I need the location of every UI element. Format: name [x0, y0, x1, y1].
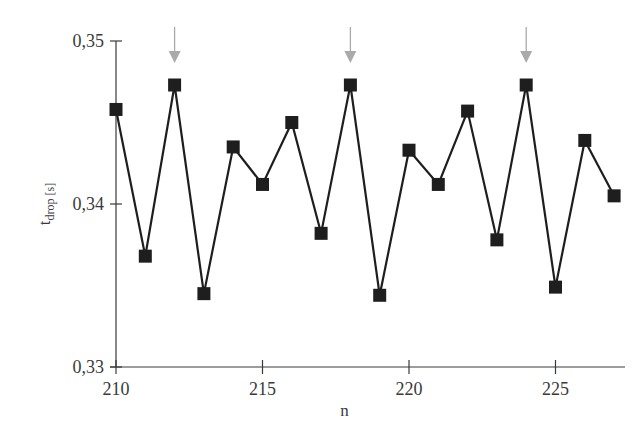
data-point-marker — [315, 227, 328, 240]
y-tick-label: 0,35 — [73, 31, 105, 51]
chart: 0,330,340,35210215220225ntdrop [s] — [0, 0, 643, 446]
data-point-marker — [344, 79, 357, 92]
data-point-marker — [461, 105, 474, 118]
series-line — [116, 85, 614, 295]
y-axis-title: tdrop [s] — [35, 183, 57, 225]
data-point-marker — [432, 178, 445, 191]
data-point-marker — [373, 289, 386, 302]
x-tick-label: 215 — [249, 379, 276, 399]
data-point-marker — [490, 233, 503, 246]
y-tick-label: 0,34 — [73, 194, 105, 214]
arrow-down-icon — [344, 51, 356, 63]
data-point-marker — [256, 178, 269, 191]
data-point-marker — [139, 250, 152, 263]
data-point-marker — [285, 116, 298, 129]
x-tick-label: 220 — [396, 379, 423, 399]
data-point-marker — [168, 79, 181, 92]
data-point-marker — [197, 287, 210, 300]
x-tick-label: 225 — [542, 379, 569, 399]
arrow-down-icon — [520, 51, 532, 63]
data-point-marker — [403, 144, 416, 157]
data-point-marker — [578, 134, 591, 147]
data-point-marker — [549, 281, 562, 294]
x-axis-title: n — [340, 401, 349, 420]
data-point-marker — [520, 79, 533, 92]
x-tick-label: 210 — [103, 379, 130, 399]
data-point-marker — [608, 189, 621, 202]
data-point-marker — [227, 140, 240, 153]
arrow-down-icon — [169, 51, 181, 63]
data-point-marker — [110, 103, 123, 116]
y-tick-label: 0,33 — [73, 357, 105, 377]
